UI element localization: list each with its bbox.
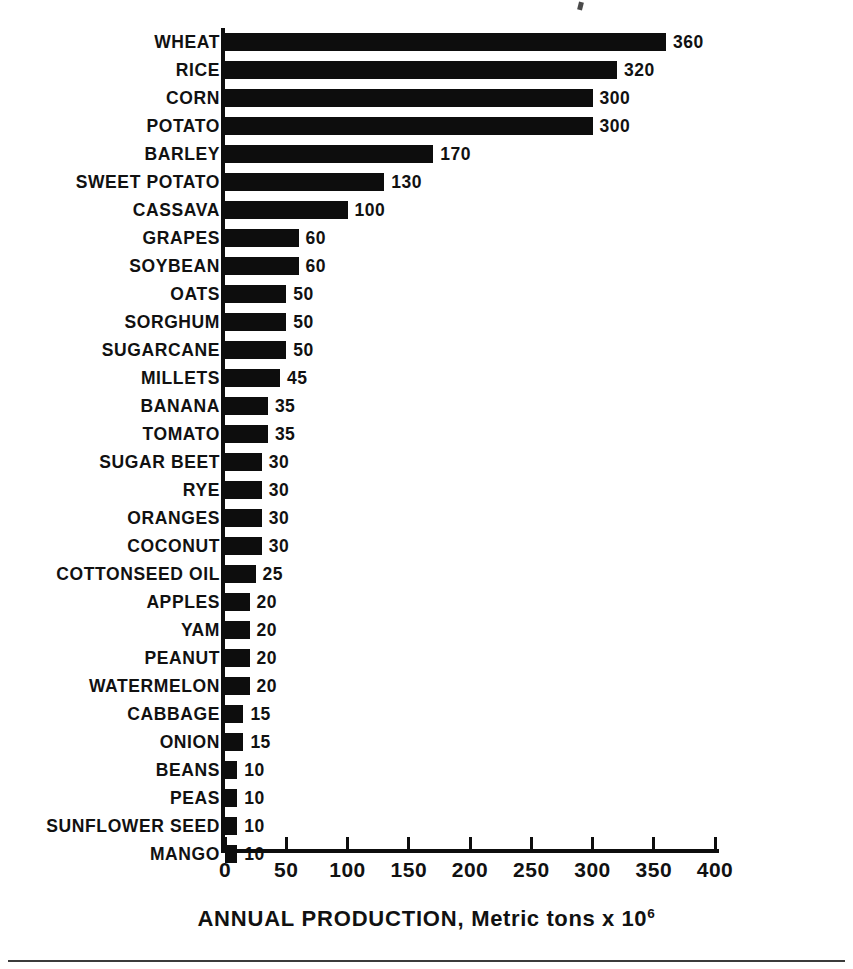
bar-fill	[225, 649, 250, 667]
bar-value-label: 50	[293, 281, 313, 307]
bar-value-label: 35	[275, 421, 295, 447]
bar-track: 100	[225, 201, 853, 219]
bar-fill	[225, 285, 286, 303]
bar-category-label: COTTONSEED OIL	[56, 560, 220, 588]
bar-value-label: 320	[624, 57, 655, 83]
bar-category-label: WATERMELON	[89, 672, 220, 700]
bar-category-label: GRAPES	[142, 224, 220, 252]
bar-value-label: 35	[275, 393, 295, 419]
bar-category-label: BANANA	[141, 392, 220, 420]
bar-track: 10	[225, 789, 853, 807]
bar-category-label: CABBAGE	[127, 700, 220, 728]
bar-track: 30	[225, 537, 853, 555]
bar-track: 10	[225, 761, 853, 779]
bar-value-label: 30	[269, 449, 289, 475]
bar-track: 300	[225, 117, 853, 135]
bar-value-label: 20	[257, 617, 277, 643]
bar-track: 30	[225, 453, 853, 471]
bar-track: 35	[225, 397, 853, 415]
bar-track: 30	[225, 509, 853, 527]
x-axis-tick-label: 400	[697, 858, 734, 882]
bar-category-label: PEANUT	[144, 644, 220, 672]
bar-row: COTTONSEED OIL25	[0, 560, 853, 588]
bar-fill	[225, 341, 286, 359]
bar-fill	[225, 61, 617, 79]
bar-fill	[225, 677, 250, 695]
bar-category-label: BEANS	[156, 756, 220, 784]
bar-category-label: ORANGES	[127, 504, 220, 532]
bar-track: 20	[225, 593, 853, 611]
bar-value-label: 20	[257, 673, 277, 699]
bar-track: 30	[225, 481, 853, 499]
bar-row: APPLES20	[0, 588, 853, 616]
bar-value-label: 15	[250, 729, 270, 755]
bar-fill	[225, 817, 237, 835]
x-axis-tick-label: 200	[452, 858, 489, 882]
bar-fill	[225, 33, 666, 51]
bar-value-label: 30	[269, 477, 289, 503]
bar-value-label: 300	[600, 85, 631, 111]
bar-fill	[225, 621, 250, 639]
x-axis-tick	[591, 837, 594, 850]
bar-track: 60	[225, 229, 853, 247]
bar-category-label: BARLEY	[144, 140, 220, 168]
bar-fill	[225, 145, 433, 163]
bar-track: 15	[225, 733, 853, 751]
x-axis-tick	[469, 837, 472, 850]
bar-row: WHEAT360	[0, 28, 853, 56]
bar-category-label: MILLETS	[141, 364, 220, 392]
bar-category-label: PEAS	[170, 784, 220, 812]
bar-track: 300	[225, 89, 853, 107]
bar-row: CABBAGE15	[0, 700, 853, 728]
bar-value-label: 30	[269, 533, 289, 559]
bar-category-label: OATS	[170, 280, 220, 308]
bar-row: POTATO300	[0, 112, 853, 140]
bar-category-label: RYE	[183, 476, 220, 504]
bar-value-label: 30	[269, 505, 289, 531]
bar-track: 50	[225, 285, 853, 303]
bar-track: 170	[225, 145, 853, 163]
bar-row: YAM20	[0, 616, 853, 644]
bar-row: TOMATO35	[0, 420, 853, 448]
bar-row: PEANUT20	[0, 644, 853, 672]
bar-track: 50	[225, 341, 853, 359]
y-axis-line	[221, 28, 225, 853]
bar-value-label: 15	[250, 701, 270, 727]
x-axis-tick	[224, 837, 227, 850]
bar-value-label: 50	[293, 337, 313, 363]
bar-category-label: SOYBEAN	[129, 252, 220, 280]
bar-category-label: POTATO	[146, 112, 220, 140]
bar-chart-figure: WHEAT360RICE320CORN300POTATO300BARLEY170…	[0, 0, 853, 969]
bar-category-label: SUNFLOWER SEED	[46, 812, 220, 840]
bar-fill	[225, 257, 299, 275]
bar-track: 20	[225, 621, 853, 639]
bar-category-label: ONION	[160, 728, 220, 756]
bar-fill	[225, 705, 243, 723]
bar-fill	[225, 173, 384, 191]
bar-row: ORANGES30	[0, 504, 853, 532]
bar-row: BEANS10	[0, 756, 853, 784]
x-axis-tick-label: 50	[274, 858, 298, 882]
x-axis-tick-label: 250	[513, 858, 550, 882]
bar-fill	[225, 593, 250, 611]
bar-value-label: 360	[673, 29, 704, 55]
bar-value-label: 10	[244, 813, 264, 839]
x-axis-tick	[407, 837, 410, 850]
bar-row: PEAS10	[0, 784, 853, 812]
bar-row: SUNFLOWER SEED10	[0, 812, 853, 840]
bar-fill	[225, 117, 593, 135]
bar-fill	[225, 565, 256, 583]
bar-fill	[225, 789, 237, 807]
bar-fill	[225, 201, 348, 219]
bar-value-label: 25	[263, 561, 283, 587]
bar-row: COCONUT30	[0, 532, 853, 560]
bar-category-label: YAM	[181, 616, 220, 644]
x-axis-tick-label: 100	[329, 858, 366, 882]
bar-row: BANANA35	[0, 392, 853, 420]
bar-track: 20	[225, 649, 853, 667]
bar-row: SORGHUM50	[0, 308, 853, 336]
x-axis-title-unit: Metric tons x 10	[471, 906, 647, 931]
x-axis-tick-label: 150	[391, 858, 428, 882]
bar-value-label: 10	[244, 757, 264, 783]
bar-track: 50	[225, 313, 853, 331]
